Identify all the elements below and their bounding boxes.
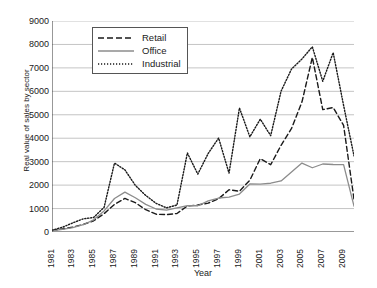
series-line-office [52,163,354,231]
legend-swatch-industrial [97,59,135,69]
x-tick-label: 1985 [87,249,97,268]
chart-container: Real value of sales by sector 0100020003… [0,0,377,288]
y-tick-label: 2000 [9,180,49,190]
x-tick-label: 2005 [295,249,305,268]
y-tick-label: 9000 [9,16,49,26]
legend-item-office: Office [97,44,181,57]
y-tick-label: 1000 [9,204,49,214]
x-tick-label: 1991 [150,249,160,268]
legend-label-industrial: Industrial [142,58,181,69]
legend-item-industrial: Industrial [97,57,181,70]
legend-label-office: Office [142,45,167,56]
x-tick-label: 1987 [108,249,118,268]
x-axis-title: Year [52,268,354,278]
chart-legend: Retail Office Industrial [92,27,188,74]
y-tick-label: 3000 [9,157,49,167]
x-tick-label: 2007 [316,249,326,268]
y-tick-label: 8000 [9,39,49,49]
x-tick-label: 1989 [129,249,139,268]
x-tick-label: 1995 [191,249,201,268]
x-tick-label: 1983 [66,249,76,268]
legend-label-retail: Retail [142,32,166,43]
x-tick-label: 2003 [275,249,285,268]
y-tick-label: 7000 [9,63,49,73]
x-tick-label: 2001 [254,249,264,268]
x-tick-label: 2009 [337,249,347,268]
legend-swatch-retail [97,33,135,43]
legend-item-retail: Retail [97,31,181,44]
x-tick-label: 1981 [46,249,56,268]
x-axis-tick-labels: 1981198319851987198919911993199519971999… [52,234,354,268]
y-tick-label: 4000 [9,133,49,143]
x-tick-label: 1999 [233,249,243,268]
x-tick-label: 1997 [212,249,222,268]
series-line-retail [52,57,354,230]
y-tick-label: 5000 [9,110,49,120]
legend-swatch-office [97,46,135,56]
x-tick-label: 1993 [170,249,180,268]
y-axis-tick-labels: 0100020003000400050006000700080009000 [5,21,49,232]
y-tick-label: 0 [9,227,49,237]
y-tick-label: 6000 [9,86,49,96]
